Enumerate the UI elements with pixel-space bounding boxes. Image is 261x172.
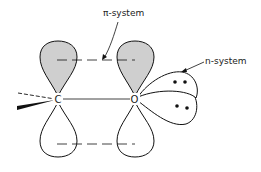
pi-system-label: π-system — [103, 9, 144, 18]
carbon-lower-p-lobe — [40, 102, 77, 157]
carbon-substituent-bonds — [17, 93, 55, 110]
pi-system-pointer-arrow — [104, 22, 118, 58]
oxygen-atom-label: O — [131, 94, 139, 105]
n-system-pointer-arrow — [184, 62, 204, 71]
orbital-drawing: C O — [0, 0, 261, 172]
carbon-atom-label: C — [55, 94, 62, 105]
orbital-diagram: C O π-system n-system — [0, 0, 261, 172]
oxygen-lower-p-lobe — [117, 102, 154, 157]
n-system-label: n-system — [205, 57, 247, 66]
carbon-upper-p-lobe — [40, 41, 77, 96]
